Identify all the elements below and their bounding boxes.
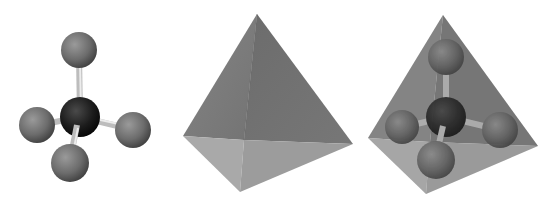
hydrogen-atom-bottom (51, 144, 89, 182)
hydrogen-atom-top (61, 32, 97, 68)
figure-canvas (0, 0, 558, 213)
tetrahedron (183, 14, 353, 192)
ball-and-stick-model (19, 32, 151, 182)
tetrahedron-face-bottom-left (183, 136, 244, 192)
inscribed-tetrahedron-glass-overlay (368, 15, 538, 194)
tetrahedron-face-front-right (244, 14, 353, 144)
central-carbon-atom (60, 97, 100, 137)
model-in-tetrahedron (368, 15, 538, 194)
hydrogen-atom-left (19, 107, 55, 143)
hydrogen-atom-right (115, 112, 151, 148)
tetrahedron-face-bottom-right (240, 140, 353, 192)
